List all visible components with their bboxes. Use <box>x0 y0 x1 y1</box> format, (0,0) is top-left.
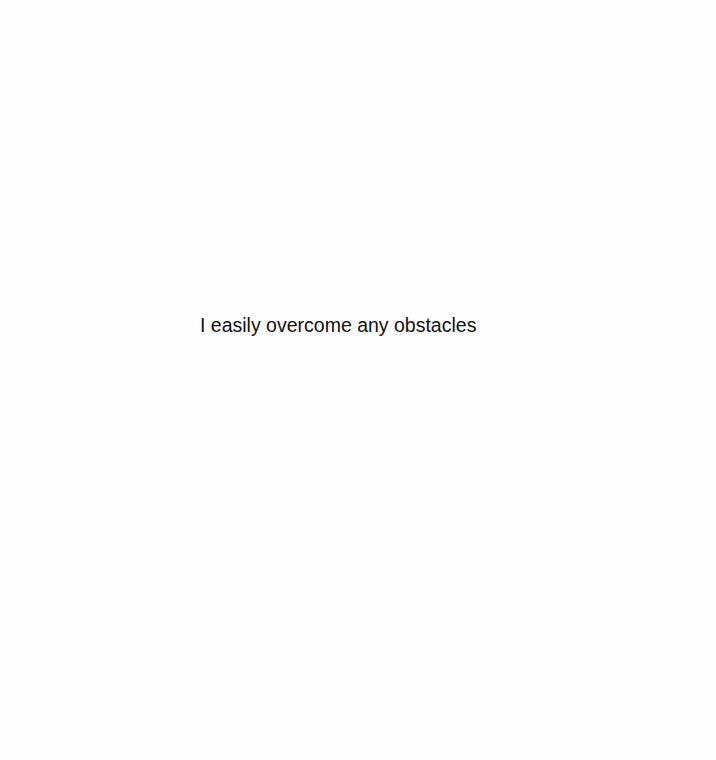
document-page: I easily overcome any obstacles <box>0 0 716 760</box>
affirmation-text: I easily overcome any obstacles <box>200 313 476 337</box>
